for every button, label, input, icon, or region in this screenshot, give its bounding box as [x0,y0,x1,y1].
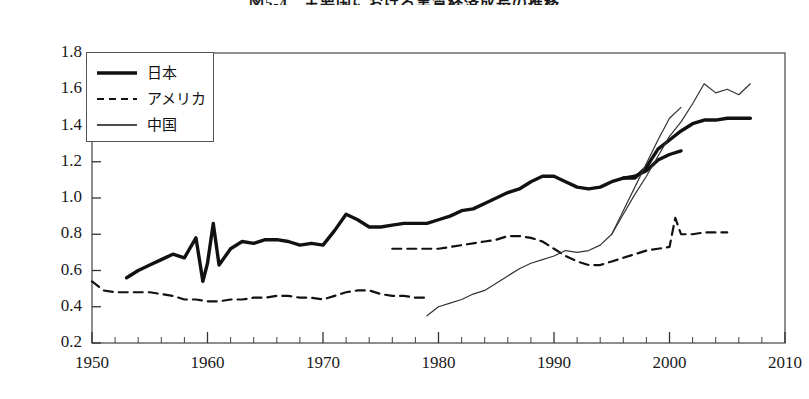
y-tick-label: 1.8 [36,42,82,62]
legend-label: アメリカ [147,92,206,107]
legend-swatch-dashed-icon [96,93,138,105]
legend-label: 中国 [147,118,177,133]
y-tick-label: 0.6 [36,260,82,280]
x-tick-label: 1990 [519,353,589,373]
x-tick-label: 1970 [288,353,358,373]
legend-item-日本[interactable]: 日本 [87,60,213,86]
chart-figure: 図5-4 主要国における実質経済成長の推移 日本アメリカ中国 195019601… [0,0,809,399]
y-tick-label: 1.4 [36,115,82,135]
y-tick-label: 0.4 [36,296,82,316]
chart-legend: 日本アメリカ中国 [86,52,214,142]
y-tick-label: 0.2 [36,332,82,352]
legend-label: 日本 [147,66,177,81]
y-tick-label: 1.6 [36,78,82,98]
y-tick-label: 1.0 [36,187,82,207]
legend-swatch-solid-thick-icon [96,67,138,79]
x-tick-label: 1950 [57,353,127,373]
legend-item-アメリカ[interactable]: アメリカ [87,86,213,112]
series-line-日本 [623,151,681,178]
y-tick-label: 0.8 [36,223,82,243]
x-tick-label: 2010 [750,353,809,373]
series-line-アメリカ [92,281,427,301]
x-tick-label: 2000 [635,353,705,373]
y-tick-label: 1.2 [36,151,82,171]
legend-item-中国[interactable]: 中国 [87,112,213,138]
series-line-中国 [427,84,750,316]
legend-swatch-solid-thin-icon [96,119,138,131]
x-tick-label: 1980 [404,353,474,373]
series-line-アメリカ [392,218,727,265]
x-tick-label: 1960 [173,353,243,373]
